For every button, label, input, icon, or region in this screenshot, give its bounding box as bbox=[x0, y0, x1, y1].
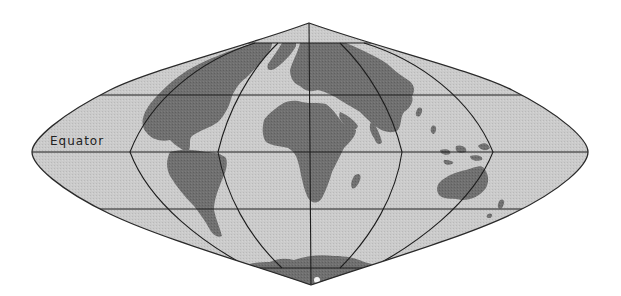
world-map: Equator bbox=[0, 0, 621, 296]
equator-label: Equator bbox=[50, 134, 104, 148]
sinusoidal-projection-map: Equator bbox=[0, 0, 621, 296]
